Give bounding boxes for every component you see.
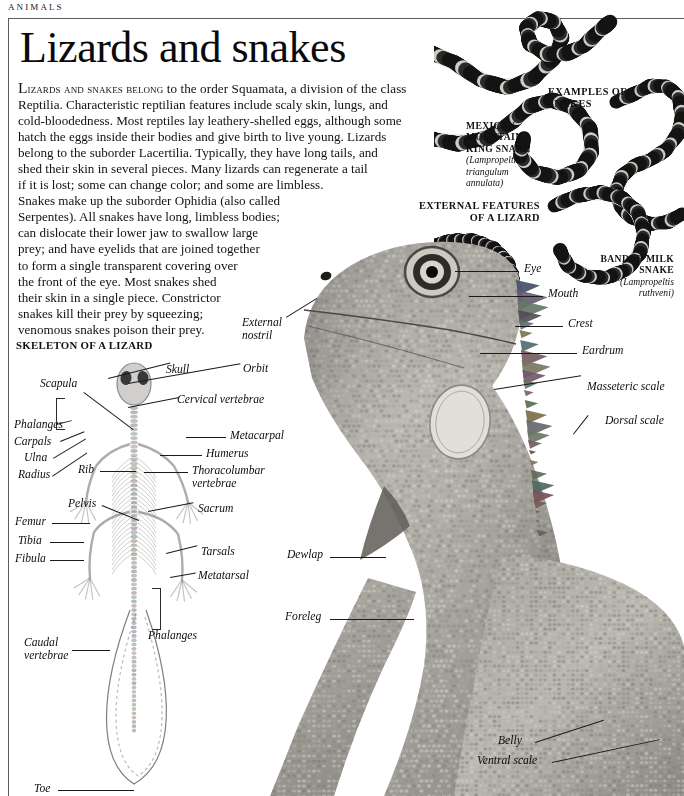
label-external-nostril-line1: External: [242, 317, 282, 330]
leader-toe: [58, 790, 134, 791]
label-tarsals: Tarsals: [201, 546, 235, 559]
heading-examples-line2: SNAKES: [548, 98, 658, 110]
label-masseteric-scale: Masseteric scale: [587, 381, 665, 394]
intro-line-8: Serpentes). All snakes have long, limble…: [18, 209, 348, 225]
intro-line-6: if it is lost; some can change color; an…: [18, 177, 348, 193]
leader-tibia: [50, 542, 84, 543]
label-eye: Eye: [524, 263, 541, 276]
heading-examples-line1: EXAMPLES OF: [548, 86, 658, 98]
label-pelvis: Pelvis: [68, 498, 96, 511]
heading-skeleton-of-a-lizard: SKELETON OF A LIZARD: [16, 340, 256, 352]
bracket-phalanges-hind: [152, 588, 161, 630]
intro-line-11: to form a single transparent covering ov…: [18, 258, 348, 274]
leader-thoracolumbar: [144, 472, 188, 473]
label-mouth: Mouth: [548, 288, 578, 301]
leader-caudal-vertebrae: [72, 650, 110, 651]
leader-fibula: [50, 560, 84, 561]
label-ulna: Ulna: [24, 452, 47, 465]
bracket-phalanges-front: [56, 398, 65, 430]
caption-banded-line1: BANDED MILK: [570, 253, 674, 264]
caption-banded-latin1: (Lampropeltis: [570, 276, 674, 287]
label-orbit: Orbit: [243, 363, 268, 376]
caption-mexican-mountain-king-snake: MEXICAN MOUNTAIN KING SNAKE (Lampropelti…: [466, 120, 558, 188]
label-caudal-line2: vertebrae: [24, 650, 68, 663]
label-carpals: Carpals: [14, 436, 51, 449]
intro-line-13: their skin in a single piece. Constricto…: [18, 290, 348, 306]
leader-metacarpal: [186, 437, 226, 438]
label-fibula: Fibula: [15, 553, 46, 566]
intro-line-1: Reptilia. Characteristic reptilian featu…: [18, 97, 348, 113]
intro-line-15: venomous snakes poison their prey.: [18, 322, 348, 338]
caption-mexican-latin3: annulata): [466, 177, 558, 188]
intro-line-5: shed their skin in several pieces. Many …: [18, 161, 348, 177]
page-title: Lizards and snakes: [20, 22, 346, 74]
encyclopedia-page: ANIMALS Lizards and snakes LLIZARDS AND …: [0, 0, 684, 796]
label-caudal-line1: Caudal: [24, 637, 58, 650]
label-belly: Belly: [498, 735, 522, 748]
leader-eardrum: [480, 353, 577, 354]
intro-line-10: prey; and have eyelids that are joined t…: [18, 241, 348, 257]
caption-banded-latin2: ruthveni): [570, 287, 674, 298]
label-metacarpal: Metacarpal: [230, 430, 284, 443]
intro-line-4: belong to the suborder Lacertilia. Typic…: [18, 145, 348, 161]
label-thoracolumbar-line2: vertebrae: [192, 478, 236, 491]
leader-eye: [455, 271, 519, 272]
leader-dewlap: [330, 557, 386, 558]
label-thoracolumbar-line1: Thoracolumbar: [192, 465, 265, 478]
label-external-nostril-line2: nostril: [242, 330, 272, 343]
label-radius: Radius: [18, 469, 50, 482]
label-scapula: Scapula: [40, 378, 77, 391]
label-dorsal-scale: Dorsal scale: [605, 415, 664, 428]
label-humerus: Humerus: [206, 448, 249, 461]
caption-banded-milk-snake: BANDED MILK SNAKE (Lampropeltis ruthveni…: [570, 253, 674, 299]
intro-line-2: cold-bloodedness. Most reptiles lay leat…: [18, 113, 348, 129]
label-crest: Crest: [568, 318, 593, 331]
label-metatarsal: Metatarsal: [198, 570, 249, 583]
intro-line-12: the front of the eye. Most snakes shed: [18, 274, 348, 290]
heading-external-line2: OF A LIZARD: [372, 212, 540, 224]
intro-line-9: can dislocate their lower jaw to swallow…: [18, 225, 348, 241]
heading-examples-of-snakes: EXAMPLES OF SNAKES: [548, 86, 658, 109]
label-eardrum: Eardrum: [582, 345, 623, 358]
caption-mexican-line3: KING SNAKE: [466, 143, 558, 154]
leader-foreleg: [330, 619, 414, 620]
label-toe: Toe: [34, 783, 50, 796]
label-sacrum: Sacrum: [198, 503, 233, 516]
leader-femur: [52, 523, 90, 524]
label-ventral-scale: Ventral scale: [477, 755, 537, 768]
label-cervical-vertebrae: Cervical vertebrae: [177, 394, 264, 407]
label-phalanges-hind: Phalanges: [148, 630, 197, 643]
intro-paragraph: LLIZARDS AND SNAKES BELONG to the order …: [18, 80, 348, 338]
caption-mexican-line2: MOUNTAIN: [466, 131, 558, 142]
left-margin-rule: [8, 18, 9, 796]
heading-external-line1: EXTERNAL FEATURES: [372, 200, 540, 212]
leader-humerus: [160, 455, 202, 456]
caption-mexican-line1: MEXICAN: [466, 120, 558, 131]
leader-crest: [515, 326, 563, 327]
intro-line-7: Snakes make up the suborder Ophidia (als…: [18, 193, 348, 209]
caption-banded-line2: SNAKE: [570, 264, 674, 275]
running-head: ANIMALS: [8, 2, 64, 12]
label-foreleg: Foreleg: [285, 611, 321, 624]
label-rib: Rib: [78, 464, 94, 477]
label-tibia: Tibia: [18, 535, 42, 548]
heading-external-features: EXTERNAL FEATURES OF A LIZARD: [372, 200, 540, 223]
caption-mexican-latin1: (Lampropeltis: [466, 154, 558, 165]
leader-rib: [100, 471, 136, 472]
label-dewlap: Dewlap: [287, 549, 323, 562]
intro-line-3: hatch the eggs inside their bodies and g…: [18, 129, 348, 145]
caption-mexican-latin2: triangulum: [466, 166, 558, 177]
label-femur: Femur: [15, 516, 46, 529]
leader-mouth: [469, 296, 543, 297]
intro-line-0: LLIZARDS AND SNAKES BELONG to the order …: [18, 80, 348, 97]
